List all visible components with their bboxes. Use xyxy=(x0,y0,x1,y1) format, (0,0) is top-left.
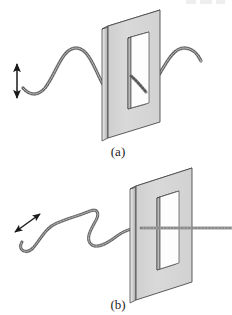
scan-crop-artifact xyxy=(186,0,225,4)
plate-b-slot-opening xyxy=(160,191,179,269)
polarization-figure-svg: (a) xyxy=(0,0,232,315)
plate-b-slot-inner-wall xyxy=(157,197,160,270)
diagonal-double-arrow xyxy=(15,214,40,232)
panel-b: (b) xyxy=(15,168,232,312)
plate-a-side-edge xyxy=(102,26,108,141)
plate-a-slot-opening xyxy=(131,32,149,108)
rope-wave-in-b xyxy=(21,210,141,251)
panel-a-caption: (a) xyxy=(111,144,125,159)
panel-b-incoming-wave xyxy=(21,210,141,251)
slotted-plate-b xyxy=(130,168,192,303)
plate-b-side-edge xyxy=(130,186,136,303)
figure-root: (a) xyxy=(0,0,232,315)
panel-b-caption: (b) xyxy=(110,297,125,312)
plate-a-slot-inner-wall xyxy=(128,37,131,109)
panel-a: (a) xyxy=(17,10,201,159)
